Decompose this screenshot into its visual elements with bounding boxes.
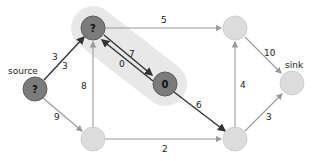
node-a[interactable]: ?	[81, 16, 105, 40]
edge-label-d-a: 8	[81, 81, 87, 91]
node-c[interactable]	[223, 16, 247, 40]
node-e[interactable]	[223, 127, 247, 151]
edge-label-a-b: 7	[129, 49, 135, 59]
edge-label-source-a-1: 3	[52, 52, 58, 62]
edge-label-source-a-2: 3	[62, 61, 68, 71]
node-b[interactable]: 0	[153, 72, 177, 96]
edge-label-e-c: 4	[240, 80, 246, 90]
edge-label-b-a: 0	[119, 59, 125, 69]
flow-network-diagram: 3 3 5 7 0 10 8 9 6 4 2 3 ? source ? 0	[0, 0, 315, 161]
edge-e-sink	[245, 94, 282, 131]
edge-label-d-e: 2	[162, 144, 168, 154]
edge-label-e-sink: 3	[266, 112, 272, 122]
edge-label-source-d: 9	[54, 112, 60, 122]
node-d[interactable]	[81, 127, 105, 151]
edge-label-c-sink: 10	[264, 48, 276, 58]
edge-label-a-c: 5	[161, 15, 167, 25]
node-source[interactable]: ?	[23, 77, 47, 101]
edge-b-e	[174, 92, 225, 131]
node-b-label: 0	[162, 79, 169, 90]
edge-label-b-e: 6	[196, 100, 202, 110]
source-caption: source	[8, 66, 38, 76]
edge-c-sink	[245, 37, 281, 73]
edge-source-d	[43, 98, 82, 131]
node-source-label: ?	[32, 84, 38, 95]
nodes: ? source ? 0 sink	[8, 16, 304, 151]
sink-caption: sink	[285, 60, 304, 70]
edge-source-a	[44, 37, 84, 80]
node-a-label: ?	[90, 23, 96, 34]
node-sink[interactable]	[280, 71, 304, 95]
